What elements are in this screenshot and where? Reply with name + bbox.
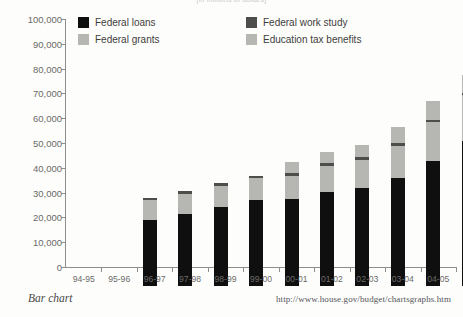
bar-segment-federal-grants <box>320 166 334 192</box>
bar-segment-education-tax-benefits <box>426 101 440 120</box>
y-axis-tick-label: 70,000 <box>33 88 62 99</box>
y-axis-tick-label: 60,000 <box>33 113 62 124</box>
y-axis-tick-label: 40,000 <box>33 162 62 173</box>
x-axis-tick <box>279 267 280 272</box>
bar-segment-federal-loans <box>320 192 334 286</box>
y-axis-tick-label: 30,000 <box>33 187 62 198</box>
x-axis-tick-label: 03-04 <box>392 274 414 284</box>
bar-02-03[interactable] <box>426 101 440 286</box>
x-axis-tick <box>101 267 102 272</box>
x-axis-tick <box>350 267 351 272</box>
y-axis-tick-label: 80,000 <box>33 63 62 74</box>
y-axis-tick <box>61 193 66 194</box>
x-axis-tick <box>243 267 244 272</box>
bar-segment-federal-grants <box>249 178 263 200</box>
bar-00-01[interactable] <box>355 145 369 286</box>
bar-segment-federal-grants <box>214 186 228 207</box>
bar-segment-federal-grants <box>143 200 157 220</box>
bar-segment-federal-work-study <box>214 183 228 185</box>
x-axis-tick-label: 99-00 <box>250 274 272 284</box>
x-axis-tick-label: 02-03 <box>356 274 378 284</box>
y-axis-tick <box>61 143 66 144</box>
bar-segment-federal-loans <box>355 188 369 286</box>
y-axis-tick <box>61 217 66 218</box>
figure: [in millions of dollars] Federal loansFe… <box>0 0 463 317</box>
y-axis-tick <box>61 242 66 243</box>
bar-segment-federal-loans <box>285 199 299 286</box>
y-axis-tick-label: 90,000 <box>33 38 62 49</box>
bar-segment-federal-grants <box>355 160 369 189</box>
y-axis-tick <box>61 44 66 45</box>
bar-segment-federal-work-study <box>426 120 440 122</box>
y-axis-tick <box>61 93 66 94</box>
bar-segment-education-tax-benefits <box>320 152 334 163</box>
bar-segment-federal-grants <box>426 122 440 160</box>
y-axis-tick-label: 20,000 <box>33 212 62 223</box>
bar-segment-education-tax-benefits <box>355 145 369 157</box>
bar-segment-federal-grants <box>391 146 405 178</box>
bar-96-97[interactable] <box>214 183 228 286</box>
y-axis-labels: 010,00020,00030,00040,00050,00060,00070,… <box>0 0 62 317</box>
bar-segment-federal-work-study <box>143 198 157 200</box>
x-axis-tick <box>137 267 138 272</box>
bar-segment-federal-work-study <box>249 176 263 178</box>
x-axis-tick-label: 04-05 <box>427 274 449 284</box>
x-axis-tick-label: 96-97 <box>144 274 166 284</box>
bar-segment-education-tax-benefits <box>391 127 405 143</box>
y-axis-tick-label: 10,000 <box>33 237 62 248</box>
y-axis-tick <box>61 69 66 70</box>
bar-segment-federal-loans <box>426 161 440 286</box>
x-axis-tick-label: 01-02 <box>321 274 343 284</box>
x-axis-tick-label: 94-95 <box>73 274 95 284</box>
y-axis-tick <box>61 168 66 169</box>
bar-segment-federal-work-study <box>178 191 192 193</box>
bar-segment-federal-loans <box>391 178 405 286</box>
x-axis-tick-label: 98-99 <box>215 274 237 284</box>
bar-01-02[interactable] <box>391 127 405 286</box>
bars-group <box>132 38 463 286</box>
bar-97-98[interactable] <box>249 176 263 286</box>
bar-99-00[interactable] <box>320 152 334 286</box>
plot-area <box>66 19 456 267</box>
x-axis-tick-label: 95-96 <box>108 274 130 284</box>
chart-subtitle: [in millions of dollars] <box>0 0 463 4</box>
bar-segment-education-tax-benefits <box>285 162 299 173</box>
x-axis-tick <box>314 267 315 272</box>
bar-segment-federal-grants <box>178 194 192 214</box>
x-axis-tick-label: 97-98 <box>179 274 201 284</box>
bar-segment-federal-work-study <box>320 163 334 165</box>
bar-segment-federal-work-study <box>285 173 299 175</box>
y-axis-tick <box>61 267 66 268</box>
x-axis-tick <box>456 267 457 272</box>
y-axis-tick <box>61 118 66 119</box>
bar-95-96[interactable] <box>178 191 192 286</box>
x-axis-tick <box>172 267 173 272</box>
source-url: http://www.house.gov/budget/chartsgraphs… <box>276 294 451 304</box>
y-axis-tick-label: 50,000 <box>33 138 62 149</box>
bar-segment-federal-work-study <box>391 143 405 145</box>
figure-caption: Bar chart <box>28 292 72 304</box>
x-axis-tick-label: 00-01 <box>285 274 307 284</box>
bar-98-99[interactable] <box>285 162 299 286</box>
y-axis-tick <box>61 19 66 20</box>
x-axis-tick <box>385 267 386 272</box>
y-axis-tick-label: 100,000 <box>28 14 62 25</box>
x-axis-tick <box>208 267 209 272</box>
bar-segment-federal-grants <box>285 176 299 200</box>
x-axis-tick <box>421 267 422 272</box>
bar-segment-federal-work-study <box>355 157 369 159</box>
bar-94-95[interactable] <box>143 198 157 286</box>
